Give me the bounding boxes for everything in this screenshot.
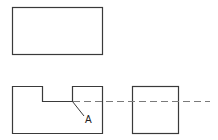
drawing-canvas: A: [0, 0, 218, 140]
side-view-square: [133, 87, 179, 134]
annotation-leader-line: [73, 102, 85, 117]
annotation-label-a: A: [85, 114, 92, 125]
top-view-rectangle: [13, 8, 103, 55]
front-view-notched-shape: [13, 87, 103, 134]
